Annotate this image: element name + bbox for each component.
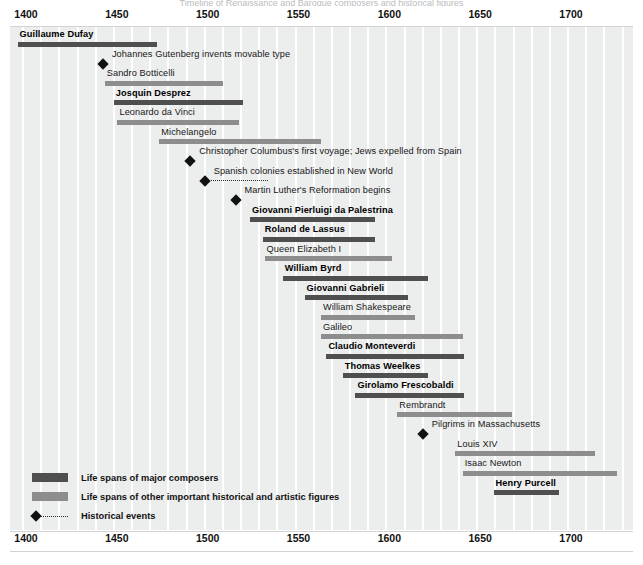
axis-tick-top: 1700 — [559, 8, 582, 20]
lifespan-bar[interactable] — [455, 451, 595, 456]
row-label: Queen Elizabeth I — [267, 244, 342, 254]
axis-tick-bottom: 1600 — [378, 532, 401, 544]
legend-swatch-event — [32, 511, 68, 521]
row-label: Giovanni Gabrieli — [307, 283, 385, 293]
row-label: Giovanni Pierluigi da Palestrina — [252, 205, 393, 215]
axis-bottom-rule-2 — [10, 551, 633, 552]
row-label: Roland de Lassus — [265, 224, 345, 234]
timeline-chart: Timeline of Renaissance and Baroque comp… — [0, 0, 643, 565]
row-label: Guillaume Dufay — [20, 29, 94, 39]
lifespan-bar[interactable] — [463, 471, 617, 476]
row-label: Claudio Monteverdi — [328, 341, 415, 351]
axis-tick-bottom: 1450 — [105, 532, 128, 544]
row-label: Spanish colonies established in New Worl… — [214, 166, 393, 176]
lifespan-bar[interactable] — [263, 237, 376, 242]
row-label: Josquin Desprez — [116, 88, 191, 98]
row-label: Leonardo da Vinci — [119, 107, 194, 117]
row-label: Rembrandt — [399, 400, 445, 410]
axis-bottom: 1400145015001550160016501700 — [10, 532, 633, 550]
chart-title: Timeline of Renaissance and Baroque comp… — [0, 0, 643, 6]
axis-tick-top: 1650 — [468, 8, 491, 20]
legend-item[interactable]: Life spans of major composers — [32, 468, 432, 487]
axis-tick-top: 1450 — [105, 8, 128, 20]
plot-area: Guillaume DufayJohannes Gutenberg invent… — [10, 27, 633, 530]
row-label: Girolamo Frescobaldi — [357, 380, 453, 390]
row-label: William Shakespeare — [323, 302, 411, 312]
lifespan-bar[interactable] — [159, 139, 321, 144]
axis-tick-top: 1400 — [14, 8, 37, 20]
lifespan-bar[interactable] — [18, 42, 158, 47]
lifespan-bar[interactable] — [114, 100, 243, 105]
axis-tick-top: 1500 — [196, 8, 219, 20]
row-label: Galileo — [323, 322, 352, 332]
lifespan-bar[interactable] — [321, 334, 463, 339]
axis-top: 1400145015001550160016501700 — [10, 8, 633, 26]
row-label: Isaac Newton — [465, 458, 522, 468]
lifespan-bar[interactable] — [321, 315, 415, 320]
lifespan-bar[interactable] — [283, 276, 428, 281]
dotted-line-icon — [41, 516, 68, 517]
axis-tick-top: 1550 — [287, 8, 310, 20]
chart-legend: Life spans of major composersLife spans … — [32, 468, 432, 525]
diamond-icon — [30, 510, 41, 521]
legend-swatch-major — [32, 473, 68, 482]
row-label: Thomas Weelkes — [345, 361, 421, 371]
legend-item[interactable]: Historical events — [32, 506, 432, 525]
row-label: Martin Luther's Reformation begins — [245, 185, 391, 195]
axis-tick-bottom: 1400 — [14, 532, 37, 544]
row-label: Pilgrims in Massachusetts — [432, 419, 541, 429]
legend-item[interactable]: Life spans of other important historical… — [32, 487, 432, 506]
axis-tick-bottom: 1700 — [559, 532, 582, 544]
row-label: Henry Purcell — [496, 478, 556, 488]
lifespan-bar[interactable] — [343, 373, 428, 378]
row-label: Michelangelo — [161, 127, 216, 137]
lifespan-bar[interactable] — [250, 217, 375, 222]
row-label: Johannes Gutenberg invents movable type — [112, 49, 290, 59]
lifespan-bar[interactable] — [355, 393, 464, 398]
event-span-line — [209, 180, 269, 181]
row-label: Louis XIV — [457, 439, 497, 449]
lifespan-bar[interactable] — [117, 120, 239, 125]
legend-label: Life spans of major composers — [81, 473, 218, 483]
row-label: Sandro Botticelli — [107, 68, 175, 78]
axis-tick-bottom: 1650 — [468, 532, 491, 544]
axis-tick-top: 1600 — [378, 8, 401, 20]
row-label: Christopher Columbus's first voyage; Jew… — [199, 146, 462, 156]
row-label: William Byrd — [285, 263, 342, 273]
lifespan-bar[interactable] — [494, 490, 559, 495]
lifespan-bar[interactable] — [105, 81, 223, 86]
legend-label: Historical events — [81, 511, 155, 521]
axis-tick-bottom: 1500 — [196, 532, 219, 544]
lifespan-bar[interactable] — [326, 354, 464, 359]
legend-label: Life spans of other important historical… — [81, 492, 339, 502]
legend-swatch-other — [32, 492, 68, 501]
lifespan-bar[interactable] — [305, 295, 409, 300]
lifespan-bar[interactable] — [397, 412, 511, 417]
lifespan-bar[interactable] — [265, 256, 392, 261]
axis-tick-bottom: 1550 — [287, 532, 310, 544]
